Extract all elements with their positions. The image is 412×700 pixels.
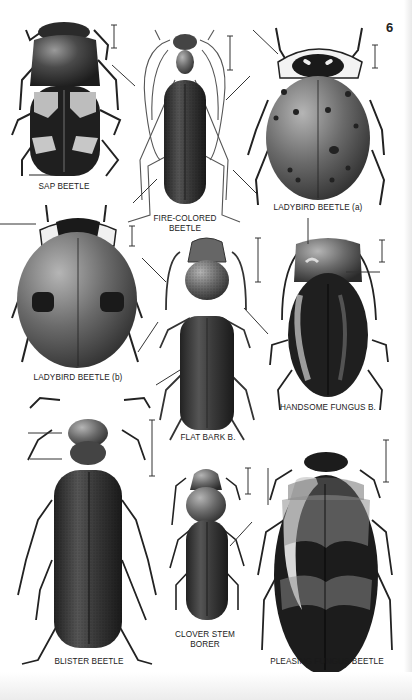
clover-stem-borer-illustration: [170, 468, 252, 620]
label-pleasing-fungus-beetle: PLEASING FUNGUS BEETLE: [262, 657, 392, 667]
label-blister-beetle: BLISTER BEETLE: [44, 657, 134, 667]
label-line-2: BORER: [170, 640, 240, 650]
page-number: 6: [386, 20, 393, 35]
ladybird-beetle-a-illustration: [248, 28, 384, 205]
ladybird-beetle-b-illustration: [0, 205, 158, 368]
page-edge-shadow: [404, 0, 412, 700]
label-sap-beetle: SAP BEETLE: [34, 182, 94, 192]
label-ladybird-beetle-a: LADYBIRD BEETLE (a): [268, 203, 368, 213]
label-line-2: BEETLE: [150, 224, 220, 234]
beetle-illustrations: [0, 0, 412, 700]
handsome-fungus-beetle-illustration: [270, 218, 388, 410]
pleasing-fungus-beetle-illustration: [258, 440, 392, 675]
sap-beetle-illustration: [12, 22, 135, 176]
page-bottom-shadow: [0, 672, 412, 700]
label-clover-stem-borer: CLOVER STEM BORER: [170, 630, 240, 650]
label-fire-colored-beetle: FIRE-COLORED BEETLE: [150, 214, 220, 234]
blister-beetle-illustration: [18, 398, 156, 664]
flat-bark-beetle-illustration: [142, 238, 268, 440]
label-flat-bark-beetle: FLAT BARK B.: [178, 433, 238, 443]
label-ladybird-beetle-b: LADYBIRD BEETLE (b): [28, 373, 128, 383]
label-line-1: FIRE-COLORED: [150, 214, 220, 224]
label-line-1: CLOVER STEM: [170, 630, 240, 640]
label-handsome-fungus-beetle: HANDSOME FUNGUS B.: [270, 403, 386, 413]
guide-page: 6 SAP BEETLE FIRE-COLORED BEETLE LADYBIR…: [0, 0, 412, 700]
fire-colored-beetle-illustration: [128, 30, 258, 222]
